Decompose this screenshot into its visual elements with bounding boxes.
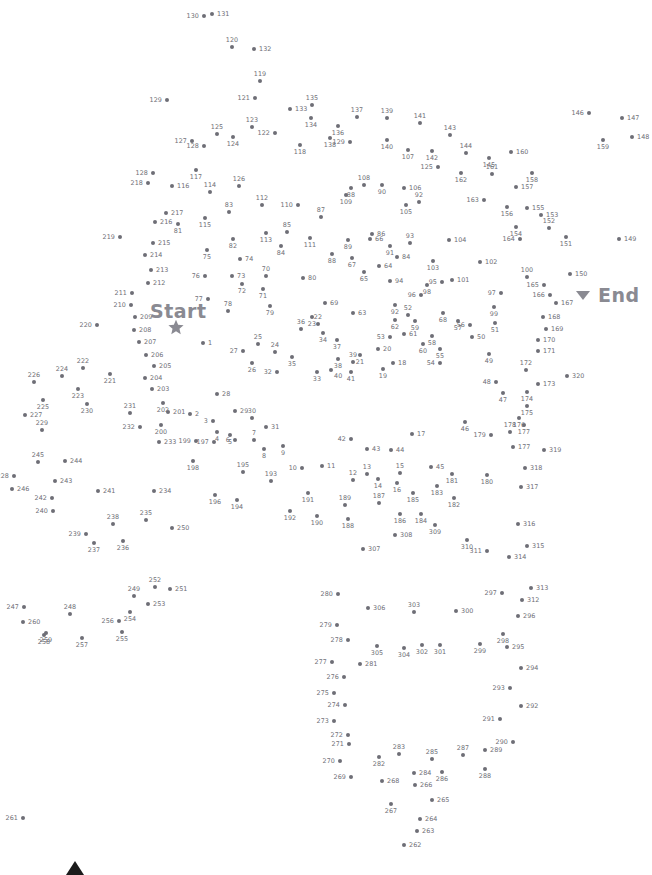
dot-number-label: 207 <box>144 339 157 345</box>
dot-marker <box>269 479 273 483</box>
dot-marker <box>565 374 569 378</box>
triangle-up-mark <box>66 861 84 875</box>
dot-marker <box>288 107 292 111</box>
dot-number-label: 303 <box>408 602 421 608</box>
dot-number-label: 11 <box>327 463 335 469</box>
dot-marker <box>132 594 136 598</box>
dot-number-label: 39 <box>349 352 357 358</box>
dot-marker <box>468 323 472 327</box>
dot-marker <box>201 341 205 345</box>
dot-marker <box>380 183 384 187</box>
dot-number-label: 180 <box>481 479 494 485</box>
dot-number-label: 146 <box>572 110 585 116</box>
dot-number-label: 128 <box>187 143 200 149</box>
dot-number-label: 259 <box>40 637 53 643</box>
dot-number-label: 19 <box>379 373 387 379</box>
dot-number-label: 201 <box>173 409 186 415</box>
dot-number-label: 255 <box>116 636 129 642</box>
dot-marker <box>388 244 392 248</box>
dot-marker <box>203 274 207 278</box>
dot-marker <box>252 438 256 442</box>
dot-marker <box>290 355 294 359</box>
dot-marker <box>525 544 529 548</box>
dot-number-label: 139 <box>381 108 394 114</box>
dot-number-label: 63 <box>358 310 366 316</box>
dot-marker <box>429 465 433 469</box>
dot-marker <box>235 498 239 502</box>
dot-number-label: 10 <box>289 465 297 471</box>
dot-marker <box>41 398 45 402</box>
dot-number-label: 20 <box>383 346 391 352</box>
dot-number-label: 3 <box>204 418 208 424</box>
dot-number-label: 112 <box>256 195 269 201</box>
dot-marker <box>40 428 44 432</box>
dot-number-label: 161 <box>486 164 499 170</box>
dot-marker <box>509 150 513 154</box>
dot-marker <box>397 752 401 756</box>
dot-number-label: 254 <box>124 616 137 622</box>
dot-number-label: 28 <box>222 391 230 397</box>
dot-marker <box>370 232 374 236</box>
dot-number-label: 178 <box>504 422 517 428</box>
dot-marker <box>203 216 207 220</box>
dot-marker <box>346 517 350 521</box>
dot-marker <box>361 547 365 551</box>
dot-number-label: 130 <box>187 13 200 19</box>
dot-marker <box>231 237 235 241</box>
dot-marker <box>483 767 487 771</box>
dot-number-label: 51 <box>491 327 499 333</box>
dot-marker <box>541 315 545 319</box>
dot-marker <box>418 121 422 125</box>
dot-number-label: 34 <box>319 337 327 343</box>
dot-number-label: 171 <box>543 348 556 354</box>
dot-marker <box>450 472 454 476</box>
dot-number-label: 16 <box>393 487 401 493</box>
dot-marker <box>362 183 366 187</box>
dot-marker <box>536 338 540 342</box>
dot-number-label: 225 <box>37 404 50 410</box>
dot-marker <box>413 783 417 787</box>
dot-number-label: 157 <box>521 184 534 190</box>
dot-marker <box>336 357 340 361</box>
dot-marker <box>376 477 380 481</box>
dot-number-label: 137 <box>351 107 364 113</box>
dot-marker <box>501 391 505 395</box>
dot-marker <box>358 353 362 357</box>
dot-marker <box>377 264 381 268</box>
dot-number-label: 173 <box>543 381 556 387</box>
dot-number-label: 62 <box>391 324 399 330</box>
dot-marker <box>421 342 425 346</box>
dot-marker <box>438 643 442 647</box>
dot-number-label: 127 <box>175 138 188 144</box>
dot-marker <box>402 843 406 847</box>
dot-marker <box>138 425 142 429</box>
dot-marker <box>336 592 340 596</box>
dot-number-label: 126 <box>233 176 246 182</box>
dot-number-label: 291 <box>483 716 496 722</box>
dot-marker <box>411 491 415 495</box>
dot-number-label: 239 <box>69 531 82 537</box>
dot-marker <box>264 425 268 429</box>
dot-marker <box>329 368 333 372</box>
dot-marker <box>430 149 434 153</box>
dot-marker <box>436 165 440 169</box>
dot-number-label: 264 <box>425 816 438 822</box>
dot-marker <box>137 340 141 344</box>
dot-number-label: 75 <box>203 254 211 260</box>
dot-number-label: 192 <box>284 515 297 521</box>
dot-marker <box>165 98 169 102</box>
dot-number-label: 66 <box>375 236 383 242</box>
dot-marker <box>133 315 137 319</box>
dot-number-label: 92 <box>391 309 399 315</box>
dot-marker <box>365 472 369 476</box>
dot-number-label: 306 <box>373 605 386 611</box>
dot-number-label: 187 <box>373 493 386 499</box>
dot-number-label: 105 <box>400 209 413 215</box>
dot-number-label: 250 <box>177 525 190 531</box>
dot-marker <box>525 275 529 279</box>
dot-marker <box>454 609 458 613</box>
dot-marker <box>316 322 320 326</box>
dot-number-label: 253 <box>153 601 166 607</box>
dot-marker <box>210 12 214 16</box>
dot-marker <box>68 612 72 616</box>
